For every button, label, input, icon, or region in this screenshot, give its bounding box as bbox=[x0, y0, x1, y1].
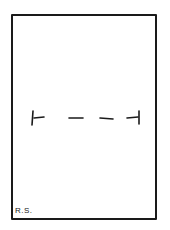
artist-initials: R.S. bbox=[15, 206, 33, 215]
dashed-line bbox=[0, 0, 170, 230]
